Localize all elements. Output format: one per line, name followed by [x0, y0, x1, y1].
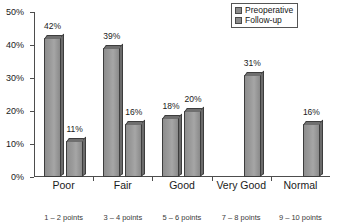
bar[interactable]: 42% [44, 38, 61, 177]
bar[interactable]: 31% [244, 75, 261, 177]
bar-value-label: 11% [66, 125, 82, 134]
y-axis-tick-label: 40% [6, 41, 24, 50]
bar-slot: 20% [182, 12, 204, 177]
legend-swatch-follow-up [235, 17, 242, 24]
bar-slot: 39% [101, 12, 123, 177]
bar-value-label: 16% [125, 108, 142, 117]
y-axis-tick-label: 10% [6, 140, 24, 149]
bar-slot: 31% [241, 12, 263, 177]
bar[interactable]: 18% [162, 118, 179, 177]
bar[interactable]: 16% [303, 124, 320, 177]
bar-group: 39%16% [93, 12, 152, 177]
chart-legend: Preoperative Follow-up [231, 3, 298, 28]
bar-value-label: 16% [303, 108, 320, 117]
x-axis-category-labels: PoorFairGoodVery GoodNormal [34, 180, 330, 206]
bar-group: 42%11% [34, 12, 93, 177]
y-axis-tick-label: 30% [6, 74, 24, 83]
bar-slot: 16% [300, 12, 322, 177]
bar[interactable]: 39% [103, 48, 120, 177]
bar[interactable]: 11% [66, 141, 83, 177]
bar-placeholder [278, 12, 300, 177]
legend-label-follow-up: Follow-up [245, 16, 282, 25]
x-axis-category-label: Normal [271, 180, 330, 192]
x-axis-category-label: Fair [93, 180, 152, 192]
bar-group: 31% [212, 12, 271, 177]
x-axis-sublabels: 1 – 2 points3 – 4 points5 – 6 points7 – … [20, 213, 337, 224]
x-axis-category-label: Poor [34, 180, 93, 192]
legend-item-follow-up[interactable]: Follow-up [235, 16, 293, 25]
bar-slot: 42% [42, 12, 64, 177]
x-axis-sublabel: 3 – 4 points [93, 213, 152, 222]
bar-value-label: 20% [184, 95, 201, 104]
x-axis-sublabel: 1 – 2 points [34, 213, 93, 222]
x-axis-sublabel: 7 – 8 points [212, 213, 271, 222]
bar[interactable]: 16% [125, 124, 142, 177]
bar-chart: Preoperative Follow-up 0%10%20%30%40%50%… [0, 0, 337, 224]
bar-value-label: 31% [244, 59, 261, 68]
x-axis-category-label: Very Good [212, 180, 271, 192]
legend-swatch-preoperative [235, 7, 242, 14]
y-axis-tick-label: 0% [11, 173, 24, 182]
legend-item-preoperative[interactable]: Preoperative [235, 6, 293, 15]
x-axis-category-label: Good [152, 180, 211, 192]
legend-label-preoperative: Preoperative [245, 6, 293, 15]
bar-group: 18%20% [152, 12, 211, 177]
y-axis-tick-label: 20% [6, 107, 24, 116]
plot-area: 0%10%20%30%40%50% 42%11%39%16%18%20%31%1… [34, 12, 330, 177]
bar-value-label: 18% [162, 102, 179, 111]
bar-slot: 16% [123, 12, 145, 177]
bar-value-label: 42% [44, 22, 61, 31]
bar[interactable]: 20% [184, 111, 201, 177]
bar-placeholder [219, 12, 241, 177]
y-axis-tick-label: 50% [6, 8, 24, 17]
bar-slot: 18% [160, 12, 182, 177]
x-axis-sublabel: 5 – 6 points [152, 213, 211, 222]
bar-value-label: 39% [103, 32, 120, 41]
x-axis-sublabel: 9 – 10 points [271, 213, 330, 222]
bar-group: 16% [271, 12, 330, 177]
bar-slot: 11% [64, 12, 86, 177]
